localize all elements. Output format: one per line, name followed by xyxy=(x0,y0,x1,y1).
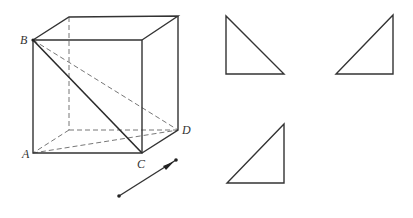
segment-BC xyxy=(33,40,142,153)
label-A: A xyxy=(21,147,30,161)
geometry-figure: B A C D xyxy=(0,0,413,218)
vector-start-point xyxy=(117,194,121,198)
hidden-edge-left-bottom xyxy=(33,130,69,153)
cube-top-face xyxy=(33,16,178,40)
point-B xyxy=(31,38,34,41)
label-C: C xyxy=(137,157,146,171)
segment-BD xyxy=(33,40,178,130)
vector-end-point xyxy=(174,158,178,162)
segment-AD xyxy=(33,130,178,153)
triangle-3 xyxy=(227,124,284,183)
triangle-1 xyxy=(226,16,284,74)
label-B: B xyxy=(20,33,28,47)
arrowhead-icon xyxy=(163,162,174,171)
cube-hidden-edges xyxy=(33,17,178,153)
vector-arrow xyxy=(117,158,178,198)
label-D: D xyxy=(181,123,191,137)
triangle-2 xyxy=(336,15,393,74)
